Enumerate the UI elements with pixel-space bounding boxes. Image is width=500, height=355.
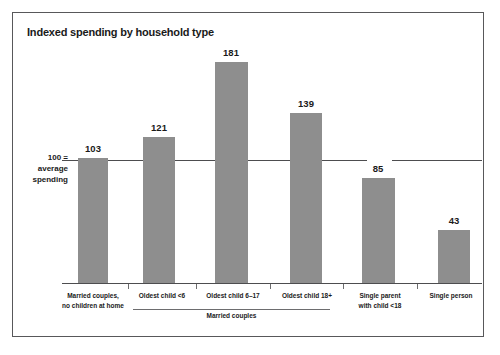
category-label-line-1: Single parent — [344, 291, 416, 301]
reference-annotation-line-1: 100 = — [20, 152, 68, 163]
bar-value-label: 103 — [63, 143, 123, 154]
category-label-line-2: with child <18 — [344, 301, 416, 311]
bar-married-no-children — [78, 158, 108, 283]
category-label-line-1: Single person — [418, 291, 484, 301]
bar-oldest-child-under-6 — [143, 137, 175, 283]
axis-tick — [128, 284, 129, 289]
reference-line-right — [392, 160, 482, 161]
bar-single-person — [438, 230, 470, 283]
bar-oldest-child-6-17 — [215, 62, 248, 283]
category-label-oldest-child-18-plus: Oldest child 18+ — [271, 291, 343, 301]
bar-oldest-child-18-plus — [290, 113, 322, 283]
bar-single-parent-child-under-18 — [362, 178, 395, 283]
group-label-married-couples: Married couples — [133, 312, 330, 319]
axis-tick — [196, 284, 197, 289]
reference-annotation-line-2: average — [20, 163, 68, 174]
axis-tick — [343, 284, 344, 289]
category-label-oldest-child-under-6: Oldest child <6 — [127, 291, 197, 301]
category-label-single-person: Single person — [418, 291, 484, 301]
bar-value-label: 139 — [276, 98, 336, 109]
category-label-married-no-children: Married couples, no children at home — [58, 291, 128, 311]
chart-page: Indexed spending by household type 100 =… — [0, 0, 500, 355]
category-label-line-1: Oldest child 6–17 — [197, 291, 269, 301]
category-label-line-1: Oldest child <6 — [127, 291, 197, 301]
category-axis — [62, 283, 482, 284]
category-label-line-1: Oldest child 18+ — [271, 291, 343, 301]
bar-value-label: 181 — [201, 47, 261, 58]
category-label-oldest-child-6-17: Oldest child 6–17 — [197, 291, 269, 301]
category-label-line-1: Married couples, — [58, 291, 128, 301]
bar-value-label: 121 — [129, 122, 189, 133]
reference-line-tick — [69, 160, 75, 161]
reference-annotation: 100 = average spending — [20, 152, 68, 185]
group-bracket-married-couples — [133, 309, 330, 310]
bar-value-label: 85 — [348, 163, 408, 174]
category-label-line-2: no children at home — [58, 301, 128, 311]
axis-tick — [417, 284, 418, 289]
plot-area: 100 = average spending 103 121 181 139 8… — [0, 0, 500, 355]
axis-tick — [270, 284, 271, 289]
bar-value-label: 43 — [424, 215, 484, 226]
category-label-single-parent: Single parent with child <18 — [344, 291, 416, 311]
reference-annotation-line-3: spending — [20, 174, 68, 185]
